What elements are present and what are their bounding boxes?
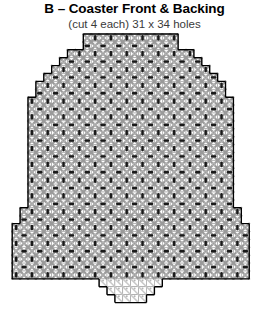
- pattern-chart-svg: [0, 32, 269, 326]
- page-title: B – Coaster Front & Backing: [0, 2, 269, 16]
- pattern-chart: [0, 32, 269, 326]
- page-subtitle: (cut 4 each) 31 x 34 holes: [0, 18, 269, 31]
